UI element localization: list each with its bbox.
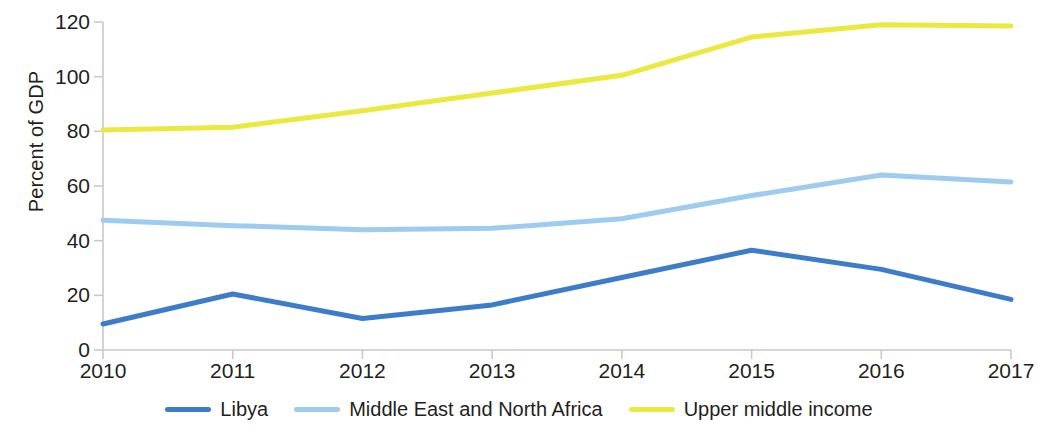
legend-swatch-icon: [629, 407, 675, 412]
legend-item[interactable]: Upper middle income: [629, 398, 873, 420]
legend-swatch-icon: [165, 407, 211, 412]
legend-swatch-icon: [294, 407, 340, 412]
plot-area: [0, 0, 1038, 427]
legend-item[interactable]: Libya: [165, 398, 268, 420]
line-chart: Percent of GDP 020406080100120 201020112…: [0, 0, 1038, 427]
legend-label: Libya: [220, 398, 268, 420]
series-line-2: [103, 25, 1011, 130]
chart-legend: LibyaMiddle East and North AfricaUpper m…: [0, 398, 1038, 420]
series-line-1: [103, 175, 1011, 230]
legend-label: Middle East and North Africa: [349, 398, 602, 420]
legend-item[interactable]: Middle East and North Africa: [294, 398, 602, 420]
series-line-0: [103, 250, 1011, 324]
legend-label: Upper middle income: [684, 398, 873, 420]
